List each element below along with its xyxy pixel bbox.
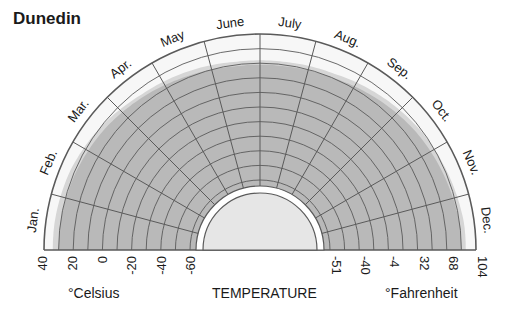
- celsius-tick: -60: [183, 256, 198, 275]
- fahrenheit-tick: 32: [417, 256, 432, 270]
- month-label: Jan.: [24, 207, 42, 233]
- fahrenheit-tick: -40: [358, 256, 373, 275]
- month-label: May: [158, 27, 187, 50]
- month-label: June: [215, 14, 245, 33]
- month-label: Feb.: [36, 147, 60, 177]
- celsius-tick: 0: [95, 256, 110, 263]
- radial-temperature-chart: Jan.Feb.Mar.Apr.MayJuneJulyAug.Sep.Oct.N…: [0, 0, 528, 315]
- fahrenheit-tick: 68: [446, 256, 461, 270]
- month-label: Nov.: [460, 148, 484, 178]
- fahrenheit-axis-label: °Fahrenheit: [385, 285, 458, 301]
- celsius-tick: 40: [35, 256, 50, 270]
- axis-tick-labels: 40200-20-40-60-51-40-43268104: [35, 256, 489, 278]
- month-label: Aug.: [332, 26, 362, 50]
- month-label: July: [277, 14, 302, 32]
- fahrenheit-tick: 104: [475, 256, 490, 278]
- celsius-tick: 20: [65, 256, 80, 270]
- celsius-tick: -40: [154, 256, 169, 275]
- celsius-tick: -20: [124, 256, 139, 275]
- fahrenheit-tick: -4: [387, 256, 402, 268]
- temperature-axis-label: TEMPERATURE: [212, 285, 317, 301]
- month-label: Dec.: [478, 206, 496, 234]
- celsius-axis-label: °Celsius: [68, 285, 120, 301]
- fahrenheit-tick: -51: [329, 256, 344, 275]
